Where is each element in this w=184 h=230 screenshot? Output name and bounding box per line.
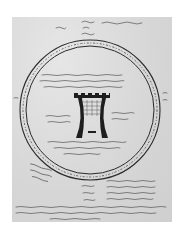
inner-left-text [46, 116, 70, 123]
lower-table [82, 181, 155, 201]
inner-right-text [112, 113, 134, 120]
inner-lower-text [48, 142, 126, 155]
tower-door [88, 131, 96, 133]
top-annotations [56, 21, 142, 35]
inner-upper-text [40, 75, 124, 88]
manuscript-drawing [0, 0, 184, 230]
bottom-paragraph [16, 207, 166, 220]
tower-icon [74, 93, 110, 138]
